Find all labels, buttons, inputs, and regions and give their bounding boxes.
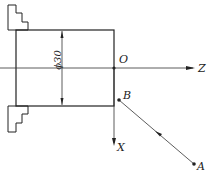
dimension-arrow-bottom-icon: [61, 98, 64, 105]
x-axis-arrow-icon: [112, 138, 116, 146]
dimension-arrow-top-icon: [61, 31, 64, 38]
chuck-jaw-top: [8, 5, 28, 30]
origin-label: O: [119, 53, 128, 66]
z-axis-label: Z: [197, 62, 206, 75]
point-b-label: B: [122, 89, 131, 102]
chuck-jaw-bottom: [8, 106, 28, 132]
diameter-label: ϕ30: [52, 50, 63, 70]
lathe-diagram: Z O X ϕ30 B A: [0, 0, 207, 180]
z-axis-arrow-icon: [186, 66, 195, 70]
point-a: [192, 162, 196, 166]
x-axis-label: X: [116, 141, 126, 154]
point-a-label: A: [196, 160, 205, 173]
point-b: [117, 98, 121, 102]
